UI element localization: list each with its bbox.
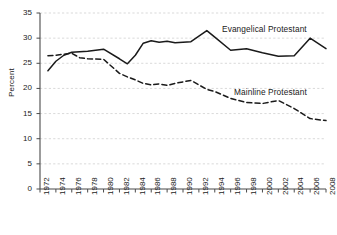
y-tick-label: 5 (10, 160, 32, 168)
x-tick-label: 2002 (282, 177, 290, 195)
y-tick-label: 30 (10, 34, 32, 42)
x-tick-label: 1984 (139, 177, 147, 195)
x-tick-label: 1976 (75, 177, 83, 195)
series-line-evangelical (48, 31, 326, 71)
x-tick-label: 1992 (202, 177, 210, 195)
y-tick-label: 0 (10, 185, 32, 193)
y-tick-label: 35 (10, 9, 32, 17)
x-tick-label: 1986 (154, 177, 162, 195)
x-tick-label: 1990 (186, 177, 194, 195)
series-label-evangelical: Evangelical Protestant (222, 24, 307, 34)
x-tick-label: 1982 (123, 177, 131, 195)
y-tick-label: 20 (10, 84, 32, 92)
y-tick-label: 15 (10, 110, 32, 118)
x-tick-label: 1994 (218, 177, 226, 195)
x-tick-label: 1978 (91, 177, 99, 195)
x-tick-label: 2008 (329, 177, 337, 195)
x-tick-label: 1998 (250, 177, 258, 195)
y-tick-label: 10 (10, 135, 32, 143)
x-tick-label: 2004 (297, 177, 305, 195)
series-label-mainline: Mainline Protestant (234, 87, 307, 97)
x-tick-label: 1972 (43, 177, 51, 195)
x-tick-label: 2006 (313, 177, 321, 195)
x-tick-label: 1988 (170, 177, 178, 195)
x-tick-label: 1974 (59, 177, 67, 195)
x-tick-label: 1980 (107, 177, 115, 195)
x-tick-label: 1996 (234, 177, 242, 195)
x-tick-label: 2000 (266, 177, 274, 195)
y-tick-label: 25 (10, 59, 32, 67)
